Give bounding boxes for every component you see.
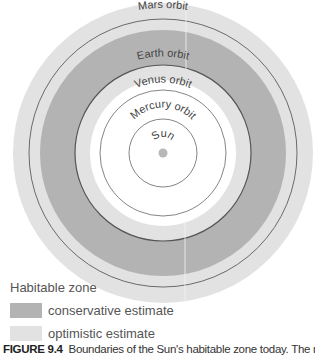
legend-item-conservative: conservative estimate [10, 302, 174, 318]
legend-label: conservative estimate [48, 303, 174, 318]
legend-label: optimistic estimate [48, 326, 155, 341]
optimistic-swatch [10, 326, 42, 341]
figure-caption: FIGURE 9.4 Boundaries of the Sun's habit… [3, 343, 315, 355]
figure-number: FIGURE 9.4 [3, 343, 63, 355]
conservative-swatch [10, 303, 42, 318]
sun-icon [159, 149, 168, 158]
legend-title: Habitable zone [10, 280, 97, 295]
legend-item-optimistic: optimistic estimate [10, 325, 155, 341]
caption-text: Boundaries of the Sun's habitable zone t… [69, 343, 315, 355]
habitable-zone-diagram: Mars orbit Earth orbit Venus orbit Mercu… [0, 0, 315, 305]
